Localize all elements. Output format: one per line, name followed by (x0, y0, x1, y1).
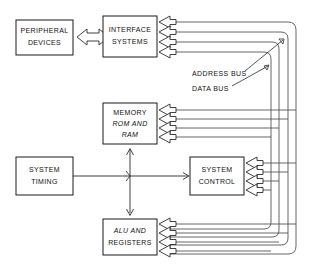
interface-systems-label-line-1: INTERFACE (109, 26, 151, 33)
memory-label-line-1: MEMORY (113, 109, 146, 116)
system-block-diagram: PERIPHERAL DEVICES INTERFACE SYSTEMS MEM… (0, 0, 317, 276)
system-timing-label-line-1: SYSTEM (29, 166, 60, 173)
alu-and-registers-rect (103, 219, 157, 255)
address-bus-label: ADDRESS BUS (192, 70, 247, 77)
control-bus-arrowheads (246, 157, 263, 196)
memory-arrowhead-4 (159, 131, 176, 143)
address-bus-inner-path (170, 32, 288, 245)
bus-wires (170, 22, 296, 254)
peripheral-devices-label-line-2: DEVICES (28, 39, 61, 46)
address-bus-outer-path (170, 22, 296, 254)
interface-arrowhead-4 (159, 46, 176, 58)
data-bus-leader-arrowhead (264, 65, 269, 70)
bus-annotations: ADDRESS BUS DATA BUS (192, 39, 284, 92)
interface-arrowhead-1 (159, 16, 176, 28)
interface-bus-arrowheads (159, 16, 176, 58)
alu-bus-arrowheads (159, 218, 176, 257)
box-alu-and-registers[interactable]: ALU AND REGISTERS (103, 219, 157, 255)
interface-systems-rect (103, 16, 157, 57)
memory-label-line-2: ROM AND (112, 120, 147, 127)
diagram-canvas: PERIPHERAL DEVICES INTERFACE SYSTEMS MEM… (0, 0, 317, 276)
peripheral-devices-rect (16, 20, 73, 55)
memory-label-line-3: RAM (122, 131, 139, 138)
system-timing-label-line-2: TIMING (31, 178, 58, 185)
box-system-control[interactable]: SYSTEM CONTROL (190, 157, 244, 195)
box-memory-rom-and-ram[interactable]: MEMORY ROM AND RAM (103, 103, 157, 144)
interface-systems-label-line-2: SYSTEMS (112, 38, 148, 45)
system-control-rect (190, 157, 244, 195)
alu-arrowhead-4 (159, 245, 176, 257)
box-system-timing[interactable]: SYSTEM TIMING (16, 157, 73, 195)
address-bus-leader-arrowhead (279, 39, 284, 44)
box-interface-systems[interactable]: INTERFACE SYSTEMS (103, 16, 157, 57)
alu-label-line-2: REGISTERS (108, 239, 152, 246)
system-control-label-line-2: CONTROL (199, 178, 236, 185)
alu-label-line-1: ALU AND (113, 227, 147, 234)
peripheral-devices-label-line-1: PERIPHERAL (21, 27, 69, 34)
data-bus-inner-path (170, 52, 271, 229)
control-arrowhead-4 (246, 184, 263, 196)
interface-arrowhead-2 (159, 26, 176, 38)
system-control-label-line-1: SYSTEM (202, 166, 233, 173)
data-bus-label: DATA BUS (192, 85, 229, 92)
box-peripheral-devices[interactable]: PERIPHERAL DEVICES (16, 20, 73, 55)
system-timing-rect (16, 157, 73, 195)
timing-distribution-wires (73, 149, 189, 216)
memory-bus-arrowheads (159, 104, 176, 143)
interface-arrowhead-3 (159, 36, 176, 48)
